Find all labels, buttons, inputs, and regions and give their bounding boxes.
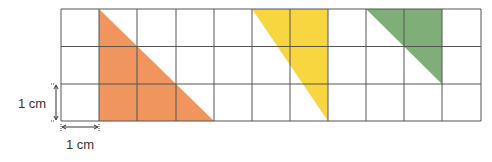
shapes	[99, 9, 442, 121]
vertical-scale-label: 1 cm	[18, 96, 46, 111]
scale-markers	[51, 84, 99, 131]
horizontal-scale-label: 1 cm	[66, 137, 94, 152]
orange-triangle	[99, 9, 214, 121]
